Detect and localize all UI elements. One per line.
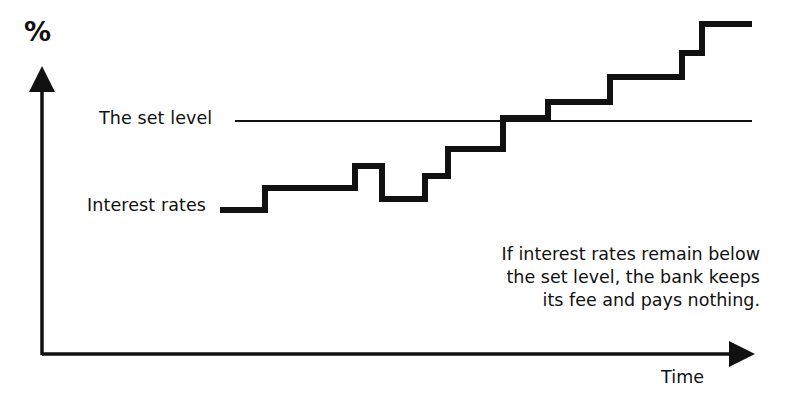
y-axis-label: % (24, 18, 51, 45)
x-axis (42, 341, 755, 367)
annotation-text: If interest rates remain below the set l… (400, 243, 760, 312)
interest-rates-label: Interest rates (87, 197, 206, 215)
interest-rates-step-line (220, 24, 752, 210)
set-level-label: The set level (99, 110, 212, 128)
annotation-line-1: If interest rates remain below (400, 243, 760, 266)
chart-figure: % The set level Interest rates Time If i… (0, 0, 786, 413)
x-axis-label: Time (661, 369, 704, 387)
y-axis (29, 66, 55, 355)
annotation-line-2: the set level, the bank keeps (400, 266, 760, 289)
y-axis-arrowhead-icon (29, 66, 55, 92)
annotation-line-3: its fee and pays nothing. (400, 289, 760, 312)
x-axis-arrowhead-icon (729, 341, 755, 367)
